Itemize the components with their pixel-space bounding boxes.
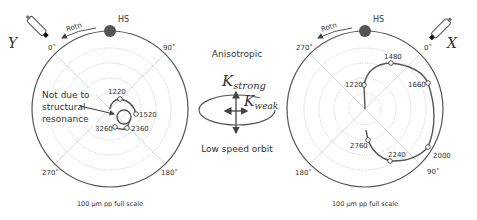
left-point-2360: 2360: [131, 125, 149, 133]
left-angle-180: 180˚: [161, 168, 178, 177]
left-hs-label: HS: [118, 15, 129, 24]
right-point-2000: 2000: [433, 152, 451, 160]
left-point-3260: 3260: [95, 125, 113, 133]
right-point-1480: 1480: [384, 53, 402, 61]
orbit-diagram-figure: HS Rotn Y 0˚ 90˚ 180˚ 270˚ 1220 1520 236…: [0, 0, 477, 220]
svg-text:structural: structural: [42, 102, 86, 112]
right-angle-0: 0˚: [424, 43, 432, 52]
right-polar-plot: HS Rotn X 0˚ 270˚ 180˚ 90˚ 1220 1480 166…: [287, 15, 458, 208]
right-scale-label: 100 µm pp full scale: [332, 200, 398, 208]
right-point-2240: 2240: [388, 151, 406, 159]
left-angle-270: 270˚: [42, 168, 59, 177]
left-orbit-path: [110, 99, 136, 114]
right-point-2760: 2760: [350, 142, 368, 150]
right-hs-label: HS: [373, 15, 384, 24]
left-rotation-label: Rotn: [65, 21, 83, 34]
left-hs-marker: [104, 25, 116, 37]
svg-text:resonance: resonance: [42, 114, 89, 124]
svg-text:Not due to: Not due to: [42, 90, 90, 100]
resonance-annotation: Not due to structural resonance: [40, 88, 114, 126]
anisotropic-title: Anisotropic: [212, 49, 262, 59]
y-probe-icon: [24, 14, 49, 39]
left-angle-90: 90˚: [163, 43, 175, 52]
left-scale-label: 100 µm pp full scale: [77, 200, 143, 208]
x-sensor-label: X: [446, 35, 458, 51]
right-angle-180: 180˚: [295, 168, 312, 177]
right-angle-90: 90˚: [427, 167, 439, 176]
left-point-1220: 1220: [108, 88, 126, 96]
left-angle-0: 0˚: [48, 43, 56, 52]
anisotropic-diagram: Anisotropic Kstrong Kweak Low speed orbi…: [199, 49, 278, 154]
left-polar-plot: HS Rotn Y 0˚ 90˚ 180˚ 270˚ 1220 1520 236…: [8, 14, 188, 208]
right-hs-marker: [359, 25, 371, 37]
y-sensor-label: Y: [8, 35, 19, 51]
right-angle-270: 270˚: [296, 43, 313, 52]
right-point-1220: 1220: [345, 81, 363, 89]
right-point-1660: 1660: [408, 81, 426, 89]
k-strong-label: Kstrong: [221, 72, 266, 91]
low-speed-orbit-caption: Low speed orbit: [201, 144, 273, 154]
k-weak-label: Kweak: [243, 93, 278, 111]
left-point-1520: 1520: [139, 111, 157, 119]
right-orbit-path: [364, 63, 434, 161]
